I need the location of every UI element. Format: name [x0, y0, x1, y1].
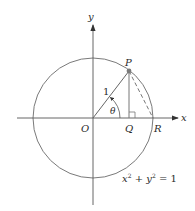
angle-theta-label: θ [110, 106, 116, 116]
segment-pr-dashed [129, 71, 153, 118]
origin-label: O [81, 123, 89, 134]
equation-plus: + [131, 173, 146, 184]
point-r-label: R [153, 123, 162, 134]
radius-label: 1 [103, 86, 109, 97]
right-angle-marker [129, 112, 135, 118]
point-p-marker [127, 69, 132, 74]
equation-rhs: = 1 [156, 173, 177, 184]
circle-equation: x2 + y2 = 1 [122, 172, 177, 184]
svg-text:x2 + y2 = 1: x2 + y2 = 1 [122, 172, 177, 184]
y-axis-label: y [87, 11, 94, 22]
point-p-label: P [124, 57, 132, 68]
unit-circle-diagram: y x O P Q R 1 θ x2 + y2 = 1 [0, 0, 195, 211]
point-q-label: Q [125, 123, 133, 134]
x-axis-label: x [181, 112, 187, 123]
